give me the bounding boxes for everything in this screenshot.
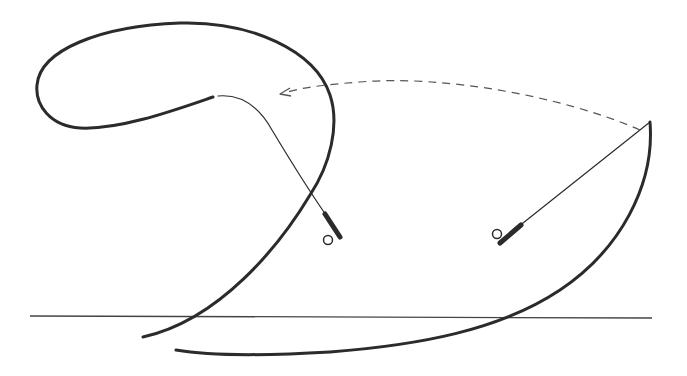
loop-line xyxy=(37,23,334,337)
forward-cast-rod-icon xyxy=(493,225,522,243)
back-cast-rod-icon xyxy=(324,214,341,245)
fly-casting-diagram xyxy=(0,0,687,376)
rod-handle xyxy=(500,225,521,243)
reel-icon xyxy=(324,236,333,245)
motion-arrow xyxy=(284,81,640,130)
horizon-line xyxy=(30,316,652,318)
rod-handle xyxy=(325,214,340,237)
reel-icon xyxy=(493,230,502,239)
forward-line xyxy=(176,122,650,355)
